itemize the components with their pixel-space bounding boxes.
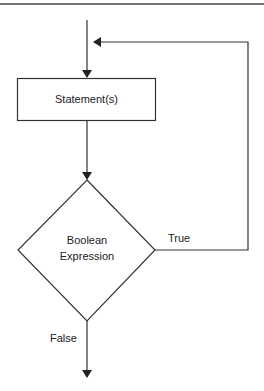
false-label: False <box>50 332 77 344</box>
condition-label-line2: Expression <box>37 250 137 262</box>
true-label: True <box>168 232 190 244</box>
condition-label-line1: Boolean <box>37 234 137 246</box>
statements-label: Statement(s) <box>17 93 156 105</box>
flowchart-canvas <box>0 0 264 391</box>
